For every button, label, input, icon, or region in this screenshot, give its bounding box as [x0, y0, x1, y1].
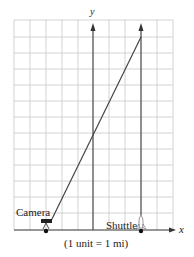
camera-icon	[41, 219, 52, 233]
x-axis	[14, 228, 176, 233]
x-axis-label: x	[179, 223, 184, 235]
shuttle-label: Shuttle	[106, 219, 137, 231]
scale-note: (1 unit = 1 mi)	[64, 237, 128, 249]
shuttle-vertical-line	[139, 23, 144, 215]
diagram-canvas	[0, 0, 194, 257]
y-axis-label: y	[90, 6, 94, 17]
camera-label: Camera	[16, 206, 50, 218]
y-axis	[91, 23, 96, 230]
sight-line	[51, 37, 141, 221]
